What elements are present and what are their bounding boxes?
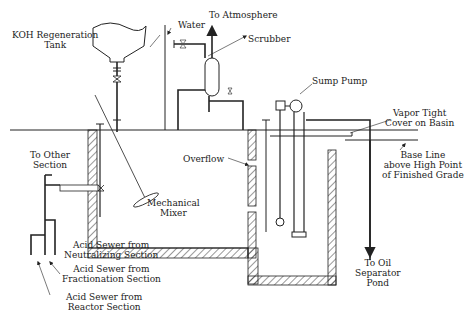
diagram-canvas: KOH Regeneration Tank Water To Atmospher… xyxy=(0,0,465,318)
koh-tank xyxy=(93,23,146,132)
mechanical-mixer xyxy=(95,95,160,209)
label-acid-sewer-neutralizing: Acid Sewer from Neutralizing Section xyxy=(64,240,158,260)
label-koh-tank: KOH Regeneration Tank xyxy=(12,30,98,50)
label-water: Water xyxy=(178,20,205,30)
label-sump-pump: Sump Pump xyxy=(312,76,367,86)
label-to-atmosphere: To Atmosphere xyxy=(209,10,278,20)
label-to-oil-separator: To Oil Separator Pond xyxy=(355,258,401,288)
main-basin xyxy=(88,130,256,258)
label-to-other-section: To Other Section xyxy=(30,150,70,170)
label-mechanical-mixer: Mechanical Mixer xyxy=(147,198,200,218)
label-vapor-cover: Vapor Tight Cover on Basin xyxy=(385,108,454,128)
label-base-line: Base Line above High Point of Finished G… xyxy=(382,150,464,180)
label-acid-sewer-reactor: Acid Sewer from Reactor Section xyxy=(66,292,142,312)
label-scrubber: Scrubber xyxy=(248,34,290,44)
sump-pit xyxy=(248,150,336,285)
label-acid-sewer-fractionation: Acid Sewer from Fractionation Section xyxy=(62,264,161,284)
sump-pump xyxy=(262,100,306,237)
label-overflow: Overflow xyxy=(183,154,224,164)
